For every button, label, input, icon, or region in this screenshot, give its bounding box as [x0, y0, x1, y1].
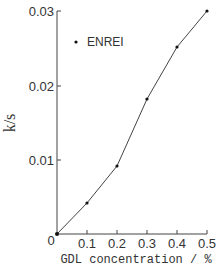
- legend-label: ENREI: [87, 35, 124, 49]
- x-tick-label: 0.5: [198, 236, 216, 251]
- chart-canvas: 0.01 0.02 0.03 0 0.1 0.2 0.3 0.4 0.5 GDL…: [0, 0, 220, 266]
- legend-marker: [74, 40, 77, 43]
- chart: 0.01 0.02 0.03 0 0.1 0.2 0.3 0.4 0.5 GDL…: [0, 0, 220, 266]
- x-tick-label: 0.1: [78, 236, 96, 251]
- y-tick-label: 0.02: [29, 79, 54, 94]
- y-axis-title: k/s: [1, 114, 18, 133]
- y-tick-label: 0.01: [29, 153, 54, 168]
- x-tick-label: 0.3: [138, 236, 156, 251]
- origin-label: 0: [47, 233, 54, 248]
- x-axis-title: GDL concentration / %: [60, 253, 212, 266]
- series-points-enrei: [55, 9, 209, 236]
- x-tick-label: 0.2: [108, 236, 126, 251]
- x-tick-label: 0.4: [168, 236, 186, 251]
- series-line-enrei: [57, 11, 207, 234]
- y-tick-label: 0.03: [29, 4, 54, 19]
- x-ticks: [87, 230, 207, 234]
- y-ticks: [57, 11, 61, 160]
